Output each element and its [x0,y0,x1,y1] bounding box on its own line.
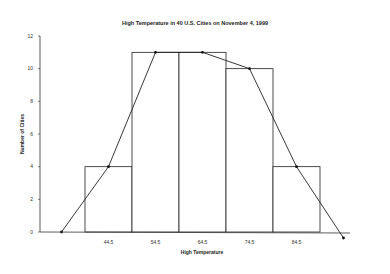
polygon-point [154,51,157,54]
y-axis-label: Number of Cities [19,114,25,154]
polygon-point [295,165,298,168]
x-tick-label: 84.5 [292,239,302,245]
y-tick-label: 8 [30,98,33,104]
x-axis-label: High Temperature [181,249,224,255]
x-tick-label: 74.5 [245,239,255,245]
histogram-chart: 024681012 44.554.564.574.584.5 Number of… [0,0,390,274]
polygon-point [201,51,204,54]
histogram-bar [179,52,226,232]
polygon-point [107,165,110,168]
y-tick-label: 6 [30,131,33,137]
y-axis: 024681012 [27,33,40,235]
polygon-point [342,237,345,240]
x-tick-label: 44.5 [104,239,114,245]
histogram-bar [85,167,132,232]
x-tick-label: 64.5 [198,239,208,245]
y-tick-label: 10 [27,65,33,71]
polygon-point [248,67,251,70]
histogram-bar [226,69,273,232]
y-tick-label: 0 [30,229,33,235]
y-tick-label: 12 [27,33,33,39]
x-axis: 44.554.564.574.584.5 [40,232,350,245]
histogram-bar [132,52,179,232]
histogram-bar [273,167,320,232]
y-tick-label: 2 [30,196,33,202]
y-tick-label: 4 [30,163,33,169]
x-tick-label: 54.5 [151,239,161,245]
